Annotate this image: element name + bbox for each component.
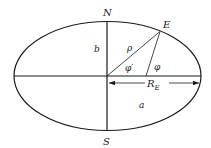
point-e-label: E: [162, 19, 171, 30]
ellipse-diagram: N S E b a ρ φ′ φ RE: [0, 0, 211, 148]
geocentric-latitude-label: φ′: [125, 63, 133, 73]
radius-line: [107, 32, 160, 77]
south-label: S: [103, 136, 110, 147]
radius-rho-label: ρ: [126, 43, 133, 53]
semi-major-label: a: [139, 100, 144, 110]
semi-minor-label: b: [94, 44, 100, 54]
geodetic-latitude-label: φ: [154, 62, 161, 72]
north-label: N: [102, 7, 113, 18]
